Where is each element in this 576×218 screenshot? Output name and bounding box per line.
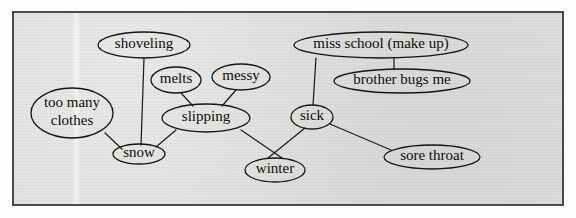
node-label-snow: snow [123,144,155,160]
node-too-many-clothes[interactable]: too manyclothes [31,88,113,138]
node-label-miss-school: miss school (make up) [313,35,448,52]
node-label-slipping: slipping [182,108,231,124]
edge-slipping-to-snow [156,130,176,147]
edge-sick-to-sore-throat [330,124,391,150]
edge-too-many-clothes-to-snow [105,133,122,149]
edge-messy-to-slipping [222,90,236,106]
node-winter[interactable]: winter [245,158,305,182]
edge-winter-to-sick [268,128,305,158]
node-label-brother-bugs-me: brother bugs me [353,71,451,87]
node-messy[interactable]: messy [212,64,270,90]
node-label-shoveling: shoveling [115,35,174,51]
node-brother-bugs-me[interactable]: brother bugs me [334,69,470,93]
node-label-too-many-clothes: too manyclothes [44,94,101,128]
node-label-winter: winter [256,160,294,176]
nodes-layer: shovelingmeltsmessytoo manyclothesslippi… [31,32,480,182]
node-snow[interactable]: snow [113,144,165,164]
node-sore-throat[interactable]: sore throat [384,145,480,169]
node-label-sick: sick [300,107,325,123]
edge-miss-school-to-sick [313,58,316,105]
node-melts[interactable]: melts [151,67,201,93]
edge-slipping-to-winter [241,130,282,158]
edge-melts-to-slipping [181,93,193,106]
node-miss-school[interactable]: miss school (make up) [294,32,468,58]
node-slipping[interactable]: slipping [162,104,250,132]
concept-map-page: shovelingmeltsmessytoo manyclothesslippi… [0,0,576,218]
node-label-melts: melts [160,70,193,86]
node-label-messy: messy [222,67,260,83]
concept-map-canvas: shovelingmeltsmessytoo manyclothesslippi… [0,0,576,218]
edge-shoveling-to-snow [141,58,144,145]
node-shoveling[interactable]: shoveling [98,32,190,58]
node-label-sore-throat: sore throat [400,147,465,163]
node-sick[interactable]: sick [291,105,333,129]
